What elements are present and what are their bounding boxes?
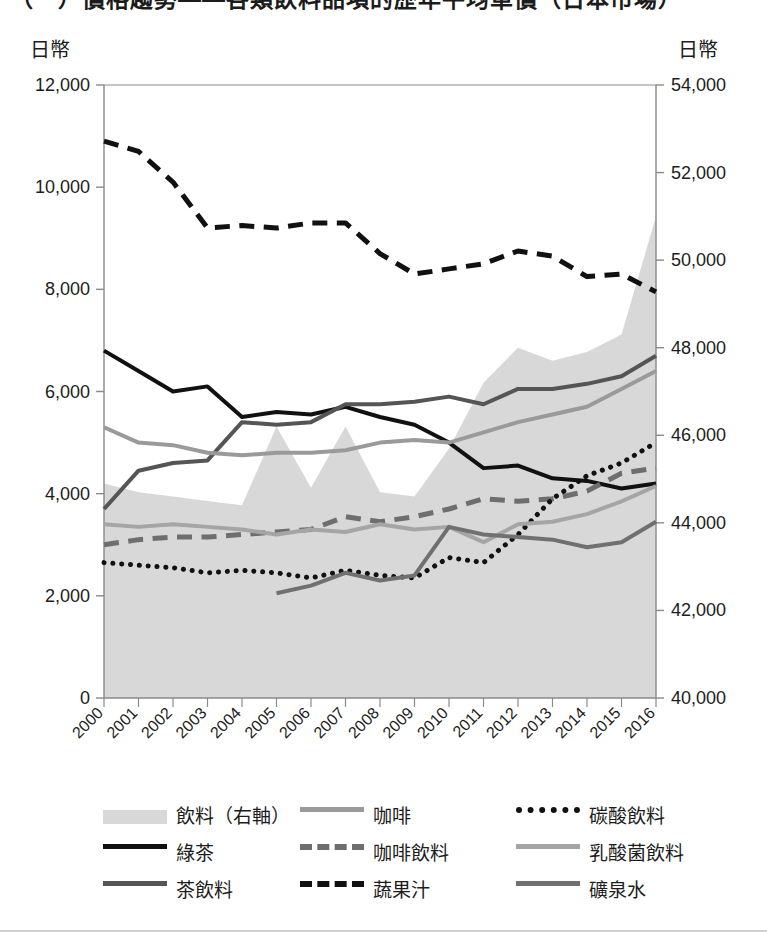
x-axis-tick-label: 2004 <box>207 704 244 741</box>
chart-plot-area: 02,0004,0006,0008,00010,00012,00040,0004… <box>0 0 767 790</box>
legend-item-beverage-right-axis[interactable]: 飲料（右軸） <box>103 807 300 826</box>
x-axis-tick-label: 2011 <box>449 704 485 740</box>
legend-row: 綠茶咖啡飲料乳酸菌飲料 <box>103 835 713 872</box>
x-axis-tick-label: 2000 <box>69 704 106 741</box>
legend-swatch-vegetable-fruit-juice <box>300 881 364 901</box>
legend-swatch-coffee <box>300 807 364 826</box>
x-axis-tick-label: 2002 <box>138 704 175 741</box>
x-axis-tick-label: 2014 <box>552 704 589 741</box>
x-axis-tick-label: 2009 <box>379 704 416 741</box>
x-axis-tick-label: 2005 <box>241 704 278 741</box>
legend-label-lactic-acid: 乳酸菌飲料 <box>589 844 684 863</box>
legend-label-coffee: 咖啡 <box>373 807 411 826</box>
legend-row: 飲料（右軸）咖啡碳酸飲料 <box>103 798 713 835</box>
x-axis-tick-label: 2001 <box>103 704 140 741</box>
left-axis-tick-label: 10,000 <box>35 177 90 197</box>
series-area-beverage <box>104 216 656 698</box>
right-axis-tick-label: 40,000 <box>671 688 726 708</box>
series-line-蔬果汁 <box>104 141 656 292</box>
x-axis-tick-label: 2015 <box>586 704 623 741</box>
right-axis-tick-label: 54,000 <box>671 75 726 95</box>
legend-swatch-tea-drink <box>103 881 167 900</box>
legend-label-vegetable-fruit-juice: 蔬果汁 <box>373 881 430 900</box>
left-axis-tick-label: 6,000 <box>45 382 90 402</box>
right-axis-tick-label: 52,000 <box>671 163 726 183</box>
legend-swatch-carbonated <box>516 807 580 827</box>
left-axis-tick-label: 8,000 <box>45 279 90 299</box>
legend-label-mineral-water: 礦泉水 <box>589 881 646 900</box>
right-axis-tick-label: 50,000 <box>671 250 726 270</box>
x-axis-tick-label: 2008 <box>345 704 382 741</box>
legend-label-beverage-right-axis: 飲料（右軸） <box>176 807 290 826</box>
legend-item-vegetable-fruit-juice[interactable]: 蔬果汁 <box>300 881 516 901</box>
legend-item-carbonated[interactable]: 碳酸飲料 <box>516 807 713 827</box>
x-axis-tick-label: 2012 <box>483 704 520 741</box>
left-axis-tick-label: 2,000 <box>45 586 90 606</box>
x-axis-tick-label: 2016 <box>621 704 658 741</box>
legend-item-coffee-drink[interactable]: 咖啡飲料 <box>300 844 516 864</box>
legend-item-coffee[interactable]: 咖啡 <box>300 807 516 826</box>
legend-swatch-green-tea <box>103 844 167 863</box>
x-axis-tick-label: 2003 <box>172 704 209 741</box>
legend-item-tea-drink[interactable]: 茶飲料 <box>103 881 300 900</box>
legend-item-lactic-acid[interactable]: 乳酸菌飲料 <box>516 844 713 863</box>
chart-legend: 飲料（右軸）咖啡碳酸飲料綠茶咖啡飲料乳酸菌飲料茶飲料蔬果汁礦泉水 <box>103 798 713 918</box>
legend-swatch-mineral-water <box>516 881 580 900</box>
legend-label-carbonated: 碳酸飲料 <box>589 807 665 826</box>
legend-swatch-coffee-drink <box>300 844 364 864</box>
right-axis-tick-label: 42,000 <box>671 600 726 620</box>
legend-label-coffee-drink: 咖啡飲料 <box>373 844 449 863</box>
legend-swatch-beverage-right-axis <box>103 810 167 824</box>
chart-svg: 02,0004,0006,0008,00010,00012,00040,0004… <box>0 0 767 790</box>
x-axis-tick-label: 2013 <box>517 704 554 741</box>
legend-item-mineral-water[interactable]: 礦泉水 <box>516 881 713 900</box>
legend-swatch-lactic-acid <box>516 844 580 863</box>
legend-label-tea-drink: 茶飲料 <box>176 881 233 900</box>
x-axis-tick-label: 2006 <box>276 704 313 741</box>
left-axis-tick-label: 4,000 <box>45 484 90 504</box>
x-axis-tick-label: 2007 <box>310 704 347 741</box>
legend-label-green-tea: 綠茶 <box>176 844 214 863</box>
legend-row: 茶飲料蔬果汁礦泉水 <box>103 872 713 909</box>
right-axis-tick-label: 46,000 <box>671 425 726 445</box>
left-axis-tick-label: 0 <box>80 688 90 708</box>
x-axis-tick-label: 2010 <box>414 704 451 741</box>
legend-item-green-tea[interactable]: 綠茶 <box>103 844 300 863</box>
right-axis-tick-label: 48,000 <box>671 338 726 358</box>
left-axis-tick-label: 12,000 <box>35 75 90 95</box>
right-axis-tick-label: 44,000 <box>671 513 726 533</box>
